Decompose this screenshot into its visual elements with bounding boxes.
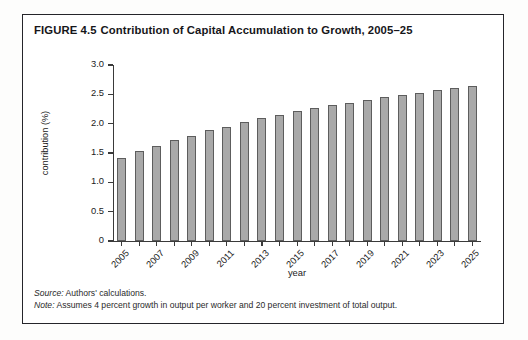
bar	[257, 118, 266, 241]
y-axis-tick: 0.5	[108, 211, 113, 212]
y-axis-tick: 2.0	[108, 123, 113, 124]
x-axis-tick	[472, 241, 473, 246]
figure-number: FIGURE 4.5	[34, 24, 97, 36]
bar	[310, 108, 319, 241]
x-axis-tick	[121, 241, 122, 246]
bar	[293, 111, 302, 241]
figure-page: FIGURE 4.5Contribution of Capital Accumu…	[0, 0, 528, 340]
y-axis-tick-label: 1.0	[91, 175, 104, 186]
x-axis-tick	[261, 241, 262, 246]
y-axis-line	[113, 65, 114, 241]
x-axis-tick	[437, 241, 438, 246]
x-axis-tick	[244, 241, 245, 246]
plot-canvas: 00.51.01.52.02.53.0200520072009201120132…	[113, 65, 481, 241]
note-line: Note: Assumes 4 percent growth in output…	[34, 299, 492, 311]
x-axis-title: year	[113, 267, 481, 278]
x-axis-tick	[367, 241, 368, 246]
bar	[380, 97, 389, 241]
y-axis-tick: 0	[108, 240, 113, 241]
x-axis-tick	[191, 241, 192, 246]
y-axis-tick-label: 0.5	[91, 205, 104, 216]
bar	[240, 122, 249, 241]
bar	[205, 130, 214, 241]
bar	[170, 140, 179, 241]
x-axis-tick	[279, 241, 280, 246]
figure-footnotes: Source: Authors' calculations. Note: Ass…	[34, 287, 492, 312]
x-axis-tick	[156, 241, 157, 246]
y-axis-tick: 3.0	[108, 64, 113, 65]
bar	[328, 105, 337, 241]
bar	[152, 146, 161, 241]
x-axis-tick	[226, 241, 227, 246]
figure-title-text: Contribution of Capital Accumulation to …	[101, 24, 413, 36]
x-axis-tick	[419, 241, 420, 246]
figure-title: FIGURE 4.5Contribution of Capital Accumu…	[34, 24, 413, 36]
bar	[187, 136, 196, 241]
y-axis-tick-label: 1.5	[91, 146, 104, 157]
x-axis-tick	[314, 241, 315, 246]
bar	[433, 90, 442, 241]
y-axis-title: contribution (%)	[40, 83, 50, 203]
x-axis-tick	[209, 241, 210, 246]
source-label: Source:	[34, 288, 64, 298]
bar	[468, 86, 477, 241]
source-line: Source: Authors' calculations.	[34, 287, 492, 299]
bar	[222, 127, 231, 241]
x-axis-tick	[454, 241, 455, 246]
bar	[117, 158, 126, 241]
y-axis-tick: 1.5	[108, 152, 113, 153]
y-axis-tick-label: 3.0	[91, 58, 104, 69]
x-axis-tick	[139, 241, 140, 246]
x-axis-tick	[297, 241, 298, 246]
y-axis-tick-label: 0	[99, 234, 104, 245]
x-axis-tick	[384, 241, 385, 246]
source-text: Authors' calculations.	[64, 288, 147, 298]
bar	[363, 100, 372, 241]
bar	[415, 93, 424, 241]
bar	[345, 103, 354, 241]
y-axis-tick: 2.5	[108, 94, 113, 95]
y-axis-tick: 1.0	[108, 182, 113, 183]
y-axis-tick-label: 2.0	[91, 117, 104, 128]
bar	[450, 88, 459, 241]
x-axis-tick	[332, 241, 333, 246]
figure-box: FIGURE 4.5Contribution of Capital Accumu…	[22, 14, 504, 324]
chart-area: contribution (%) 00.51.01.52.02.53.02005…	[23, 45, 505, 280]
x-axis-tick	[349, 241, 350, 246]
x-axis-tick	[402, 241, 403, 246]
bar	[275, 115, 284, 241]
x-axis-tick	[174, 241, 175, 246]
note-label: Note:	[34, 300, 55, 310]
bar	[135, 151, 144, 241]
note-text: Assumes 4 percent growth in output per w…	[55, 300, 398, 310]
bar	[398, 95, 407, 241]
y-axis-tick-label: 2.5	[91, 87, 104, 98]
